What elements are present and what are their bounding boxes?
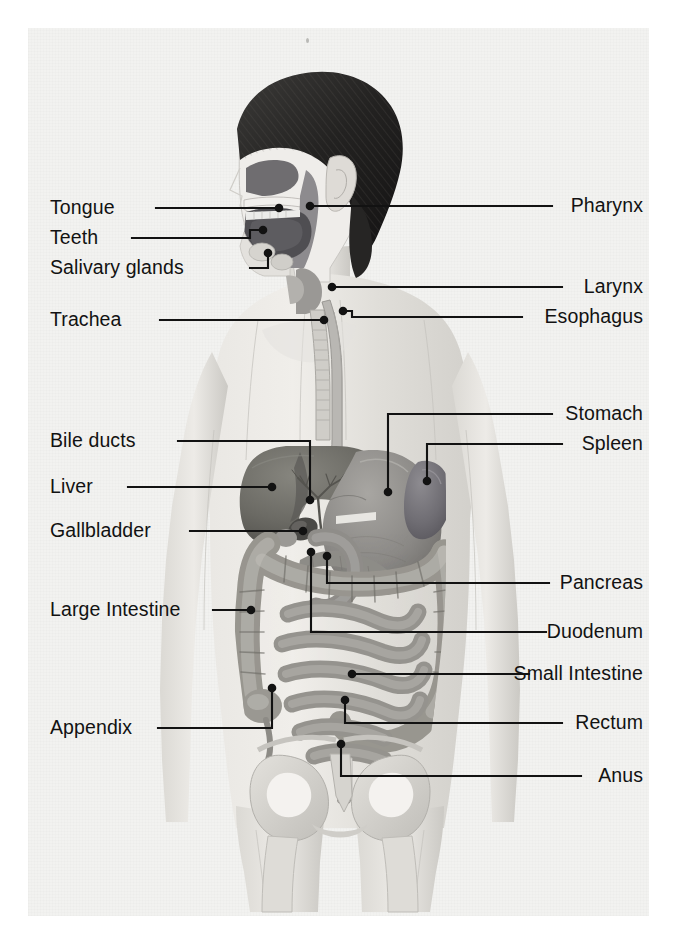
label-duodenum[interactable]: Duodenum: [547, 622, 643, 642]
dot-large-intestine: [247, 606, 256, 615]
dot-spleen: [423, 477, 432, 486]
label-pancreas[interactable]: Pancreas: [560, 573, 643, 593]
dot-pancreas: [323, 552, 332, 561]
label-teeth[interactable]: Teeth: [50, 228, 98, 248]
dot-anus: [337, 740, 346, 749]
label-esophagus[interactable]: Esophagus: [545, 307, 643, 327]
label-tongue[interactable]: Tongue: [50, 198, 115, 218]
dot-trachea: [320, 316, 329, 325]
dot-small-intestine: [348, 670, 357, 679]
diagram-page: Tongue Teeth Salivary glands Trachea Bil…: [0, 0, 677, 941]
label-anus[interactable]: Anus: [598, 766, 643, 786]
label-rectum[interactable]: Rectum: [575, 713, 643, 733]
label-spleen[interactable]: Spleen: [582, 434, 643, 454]
dot-duodenum: [307, 548, 316, 557]
label-larynx[interactable]: Larynx: [584, 277, 643, 297]
dot-salivary-glands: [264, 249, 273, 258]
dot-pharynx: [306, 202, 315, 211]
dot-tongue: [275, 204, 284, 213]
dot-larynx: [328, 283, 337, 292]
dot-appendix: [268, 684, 277, 693]
label-stomach[interactable]: Stomach: [565, 404, 643, 424]
dot-gallbladder: [299, 527, 308, 536]
label-liver[interactable]: Liver: [50, 477, 93, 497]
label-appendix[interactable]: Appendix: [50, 718, 132, 738]
head-profile: [225, 60, 415, 314]
label-trachea[interactable]: Trachea: [50, 310, 122, 330]
label-salivary-glands[interactable]: Salivary glands: [50, 258, 184, 278]
scan-speck: [306, 38, 309, 43]
label-bile-ducts[interactable]: Bile ducts: [50, 431, 136, 451]
label-pharynx[interactable]: Pharynx: [571, 196, 643, 216]
label-small-intestine[interactable]: Small Intestine: [514, 664, 643, 684]
dot-bile-ducts: [306, 496, 315, 505]
dot-rectum: [341, 696, 350, 705]
anatomical-illustration: [0, 0, 677, 941]
dot-liver: [268, 483, 277, 492]
label-large-intestine[interactable]: Large Intestine: [50, 600, 181, 620]
dot-teeth: [259, 226, 268, 235]
dot-esophagus: [339, 307, 348, 316]
label-gallbladder[interactable]: Gallbladder: [50, 521, 151, 541]
dot-stomach: [384, 488, 393, 497]
